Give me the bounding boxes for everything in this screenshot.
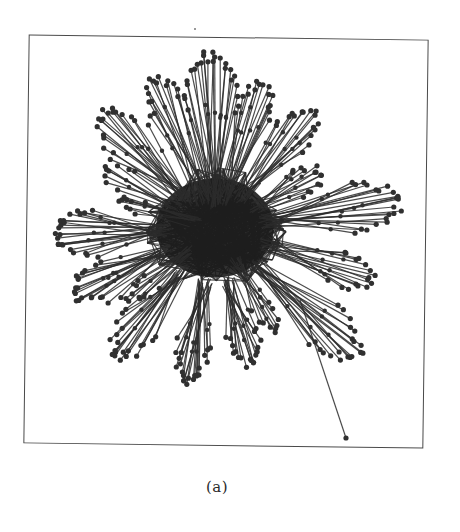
figure-caption: (a) [0, 478, 434, 496]
network-graph [0, 0, 460, 532]
graph-edges [55, 52, 401, 438]
network-figure: (a) [0, 0, 460, 532]
